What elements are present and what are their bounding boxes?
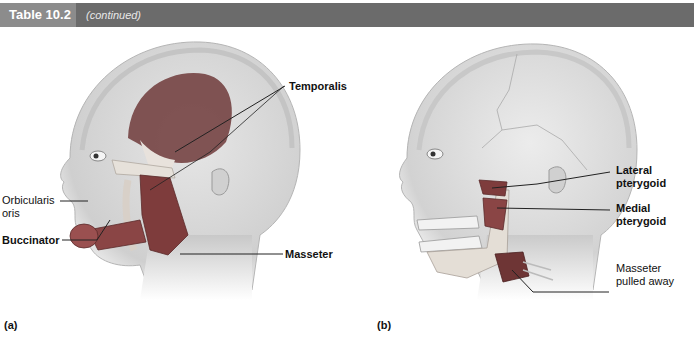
label-medial-pterygoid-line2: pterygoid — [616, 215, 666, 228]
label-lateral-pterygoid-line2: pterygoid — [616, 177, 666, 190]
label-medial-pterygoid-line1: Medial — [616, 202, 650, 215]
label-orbicularis-oris-line1: Orbicularis — [2, 194, 55, 207]
panel-label-b: (b) — [377, 319, 391, 331]
label-masseter: Masseter — [285, 248, 333, 261]
head-illustration-a — [0, 30, 347, 310]
label-masseter-pulled-away-line2: pulled away — [616, 275, 674, 288]
table-header-bar: Table 10.2 (continued) — [0, 3, 694, 27]
label-lateral-pterygoid-line1: Lateral — [616, 164, 652, 177]
label-temporalis: Temporalis — [289, 80, 347, 93]
table-continued-label: (continued) — [86, 3, 141, 27]
label-orbicularis-oris-line2: oris — [2, 207, 20, 220]
figure-a-head-muscles: Temporalis Orbicularis oris Buccinator M… — [0, 30, 347, 310]
label-masseter-pulled-away-line1: Masseter — [616, 262, 661, 275]
panel-label-a: (a) — [4, 319, 17, 331]
table-number: Table 10.2 — [0, 3, 76, 27]
figure-b-pterygoid-muscles: Lateral pterygoid Medial pterygoid Masse… — [347, 30, 694, 310]
label-buccinator: Buccinator — [2, 234, 59, 247]
